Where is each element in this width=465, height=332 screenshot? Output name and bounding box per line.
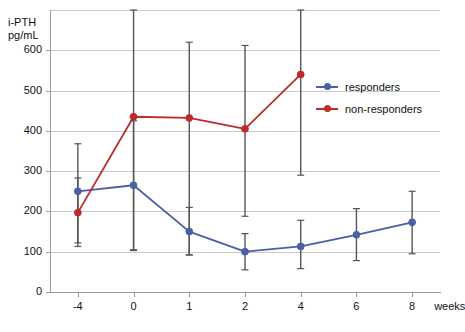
y-axis-tick-label: 200 [2,204,42,216]
x-axis-tick-label: -4 [58,300,98,312]
x-axis-tick-label: 0 [114,300,154,312]
gridline [50,50,440,51]
gridline [50,171,440,172]
y-axis-tick-label: 100 [2,245,42,257]
y-axis-tick-mark [46,211,51,212]
legend-swatch-icon [316,104,338,114]
x-axis-tick-label: 4 [281,300,321,312]
y-axis-tick-label: 600 [2,43,42,55]
x-axis-tick-label: 8 [392,300,432,312]
x-axis-tick-mark [356,292,357,297]
x-axis-tick-mark [412,292,413,297]
y-axis-title-line2: pg/mL [8,29,39,41]
x-axis-tick-mark [301,292,302,297]
plot-area [50,10,440,292]
y-axis-tick-label: 500 [2,84,42,96]
legend-label: non-responders [345,103,422,115]
legend-swatch-icon [316,82,338,92]
x-axis-tick-mark [78,292,79,297]
y-axis-title-line1: i-PTH [8,16,36,28]
y-axis-title: i-PTHpg/mL [8,16,39,42]
x-axis-tick-mark [189,292,190,297]
y-axis-tick-mark [46,50,51,51]
x-axis-unit-label: weeks [434,300,465,312]
gridline [50,10,440,11]
x-axis-tick-label: 1 [169,300,209,312]
x-axis-tick-mark [245,292,246,297]
y-axis-tick-mark [46,91,51,92]
x-axis-tick-label: 6 [336,300,376,312]
legend-item-responders[interactable]: responders [316,76,422,98]
y-axis-tick-label: 400 [2,124,42,136]
legend-item-non-responders[interactable]: non-responders [316,98,422,120]
y-axis-tick-label: 300 [2,164,42,176]
y-axis-tick-mark [46,171,51,172]
y-axis-tick-mark [46,252,51,253]
legend: respondersnon-responders [316,76,422,120]
x-axis-tick-label: 2 [225,300,265,312]
gridline [50,211,440,212]
gridline [50,131,440,132]
y-axis-tick-mark [46,131,51,132]
y-axis-tick-mark [46,292,51,293]
legend-label: responders [345,81,400,93]
x-axis-tick-mark [134,292,135,297]
y-axis-line [50,10,51,293]
y-axis-tick-label: 0 [2,285,42,297]
gridline [50,252,440,253]
